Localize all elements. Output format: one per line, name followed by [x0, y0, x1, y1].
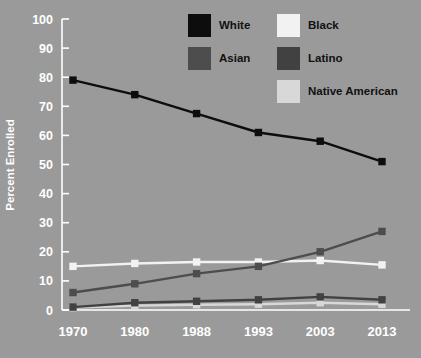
data-point-marker [317, 293, 324, 300]
y-axis-tick-label: 80 [39, 71, 53, 85]
data-point-marker [378, 261, 385, 268]
y-axis-tick-label: 50 [39, 158, 53, 172]
y-axis-tick-label: 0 [46, 304, 53, 318]
y-axis-tick-label: 20 [39, 245, 53, 259]
legend-label: Asian [219, 52, 250, 64]
data-point-marker [317, 248, 324, 255]
data-point-marker [378, 158, 385, 165]
legend-swatch [277, 14, 300, 37]
data-point-marker [193, 110, 200, 117]
data-point-marker [255, 129, 262, 136]
y-axis-title: Percent Enrolled [4, 119, 16, 210]
x-axis-tick-label: 2003 [306, 324, 335, 339]
data-point-marker [317, 257, 324, 264]
data-point-marker [131, 260, 138, 267]
y-axis-tick-label: 90 [39, 42, 53, 56]
data-point-marker [131, 299, 138, 306]
data-point-marker [193, 258, 200, 265]
x-axis-tick-label: 1993 [244, 324, 273, 339]
legend-swatch [277, 47, 300, 70]
y-axis-tick-label: 30 [39, 216, 53, 230]
data-point-marker [317, 138, 324, 145]
data-point-marker [131, 280, 138, 287]
data-point-marker [255, 263, 262, 270]
y-axis-tick-label: 10 [39, 274, 53, 288]
x-axis-tick-label: 1980 [120, 324, 149, 339]
data-point-marker [193, 298, 200, 305]
data-point-marker [69, 303, 76, 310]
chart-container: 0102030405060708090100 19701980198819932… [0, 0, 421, 358]
x-axis-tick-label: 1970 [59, 324, 88, 339]
y-axis-tick-label: 40 [39, 187, 53, 201]
legend-swatch [277, 80, 300, 103]
data-point-marker [193, 270, 200, 277]
data-point-marker [69, 263, 76, 270]
legend-swatch [188, 14, 211, 37]
data-point-marker [378, 296, 385, 303]
legend-label: White [219, 19, 250, 31]
data-point-marker [255, 296, 262, 303]
line-chart: 0102030405060708090100 19701980198819932… [0, 0, 421, 358]
x-axis-tick-label: 1988 [182, 324, 211, 339]
x-axis-tick-label: 2013 [368, 324, 397, 339]
data-point-marker [378, 228, 385, 235]
legend-label: Latino [308, 52, 343, 64]
data-point-marker [69, 76, 76, 83]
data-point-marker [69, 289, 76, 296]
y-axis-tick-label: 100 [32, 13, 53, 27]
legend-label: Native American [308, 85, 398, 97]
data-point-marker [131, 91, 138, 98]
y-axis-tick-label: 70 [39, 100, 53, 114]
legend-swatch [188, 47, 211, 70]
y-axis-tick-label: 60 [39, 129, 53, 143]
legend-label: Black [308, 19, 339, 31]
